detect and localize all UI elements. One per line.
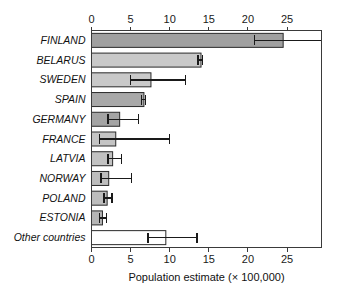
category-label: GERMANY: [32, 113, 86, 125]
bar-chart: 00551010151520202525FINLANDBELARUSSWEDEN…: [0, 0, 339, 286]
category-label: SPAIN: [55, 93, 86, 105]
category-label: FINLAND: [41, 34, 86, 46]
bar-group: [92, 112, 139, 126]
category-label: BELARUS: [36, 54, 85, 66]
x-tick-label-top: 0: [88, 13, 94, 25]
x-tick-label-top: 20: [242, 13, 254, 25]
x-tick-label-bottom: 15: [203, 253, 215, 265]
bar-group: [92, 231, 198, 245]
category-label: SWEDEN: [39, 73, 86, 85]
category-label: LATVIA: [50, 152, 85, 164]
bar-group: [92, 191, 112, 205]
bar-group: [92, 53, 203, 67]
bar: [92, 93, 144, 107]
x-tick-label-bottom: 5: [128, 253, 134, 265]
x-tick-label-bottom: 25: [281, 253, 293, 265]
bar: [92, 53, 202, 67]
bar-group: [92, 93, 146, 107]
bar-group: [92, 211, 107, 225]
bar-group: [92, 171, 132, 185]
category-label: FRANCE: [42, 133, 86, 145]
category-label: ESTONIA: [40, 211, 86, 223]
x-tick-label-top: 15: [203, 13, 215, 25]
bar-group: [92, 152, 122, 166]
category-label: NORWAY: [39, 172, 86, 184]
x-tick-label-top: 5: [128, 13, 134, 25]
x-axis-title: Population estimate (× 100,000): [128, 271, 284, 283]
x-tick-label-top: 25: [281, 13, 293, 25]
x-tick-label-bottom: 0: [88, 253, 94, 265]
x-tick-label-bottom: 20: [242, 253, 254, 265]
x-tick-label-top: 10: [164, 13, 176, 25]
bar-group: [92, 132, 170, 146]
category-label: POLAND: [42, 192, 86, 204]
bar-group: [92, 73, 186, 87]
bar-group: [92, 33, 322, 47]
x-tick-label-bottom: 10: [164, 253, 176, 265]
category-label: Other countries: [14, 231, 87, 243]
chart-canvas: 00551010151520202525FINLANDBELARUSSWEDEN…: [0, 0, 339, 286]
